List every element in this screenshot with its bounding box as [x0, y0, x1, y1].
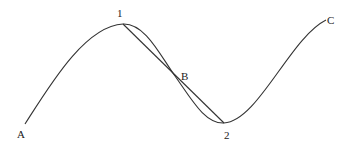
label-a: A	[17, 128, 25, 140]
diagram-canvas: A 1 B 2 C	[0, 0, 350, 145]
wave-curve	[25, 20, 326, 124]
label-b: B	[181, 70, 188, 82]
label-c: C	[327, 14, 334, 26]
label-1: 1	[117, 7, 123, 19]
label-2: 2	[224, 129, 230, 141]
chord-line	[123, 24, 224, 123]
curve-diagram: A 1 B 2 C	[0, 0, 350, 145]
